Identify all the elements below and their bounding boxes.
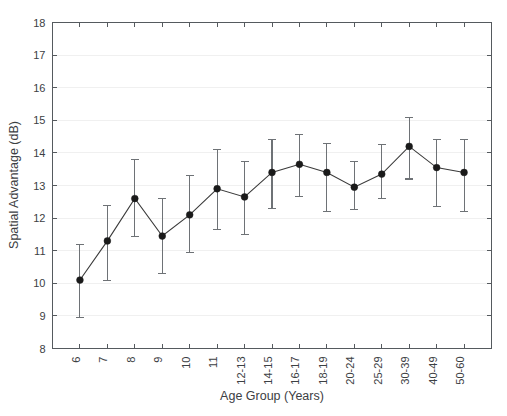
x-tick-label: 25-29 <box>372 357 384 385</box>
x-tick-label: 50-60 <box>454 357 466 385</box>
y-tick-label: 8 <box>39 343 45 355</box>
y-tick-label: 11 <box>34 245 45 257</box>
data-point-marker <box>186 211 193 218</box>
data-point-marker <box>461 169 468 176</box>
y-tick-label: 17 <box>33 49 45 61</box>
data-point-marker <box>406 143 413 150</box>
data-point-marker <box>351 184 358 191</box>
y-tick-label: 15 <box>33 114 45 126</box>
y-axis-title: Spatial Advantage (dB) <box>7 121 21 249</box>
x-tick-label: 14-15 <box>262 357 274 385</box>
x-tick-label: 11 <box>207 357 219 368</box>
data-point-marker <box>269 169 276 176</box>
x-tick-label: 40-49 <box>427 357 439 385</box>
data-point-marker <box>433 164 440 171</box>
data-point-marker <box>296 161 303 168</box>
chart-svg: 89101112131415161718 6789101112-1314-151… <box>0 0 507 416</box>
x-tick-label: 8 <box>125 357 137 363</box>
x-tick-label: 7 <box>97 357 109 363</box>
y-tick-label: 18 <box>33 17 45 29</box>
y-tick-label: 12 <box>33 212 45 224</box>
data-point-marker <box>159 233 166 240</box>
data-point-marker <box>241 194 248 201</box>
y-tick-label: 10 <box>33 277 45 289</box>
data-point-marker <box>131 195 138 202</box>
x-tick-label: 12-13 <box>235 357 247 385</box>
x-tick-label: 9 <box>152 357 164 363</box>
x-tick-label: 16-17 <box>289 357 301 385</box>
chart-figure: 89101112131415161718 6789101112-1314-151… <box>0 0 507 416</box>
y-tick-label: 14 <box>33 147 45 159</box>
data-point-marker <box>323 169 330 176</box>
data-point-marker <box>378 171 385 178</box>
chart-background <box>0 0 507 416</box>
data-point-marker <box>104 238 111 245</box>
x-tick-label: 6 <box>70 357 82 363</box>
y-tick-label: 16 <box>33 82 45 94</box>
y-tick-label: 9 <box>39 310 45 322</box>
x-axis-title: Age Group (Years) <box>220 389 324 403</box>
data-point-marker <box>77 277 84 284</box>
x-tick-label: 18-19 <box>317 357 329 385</box>
x-tick-label: 10 <box>180 357 192 369</box>
y-tick-label: 13 <box>33 180 45 192</box>
x-tick-label: 30-39 <box>399 357 411 385</box>
x-tick-label: 20-24 <box>344 357 356 385</box>
data-point-marker <box>214 185 221 192</box>
